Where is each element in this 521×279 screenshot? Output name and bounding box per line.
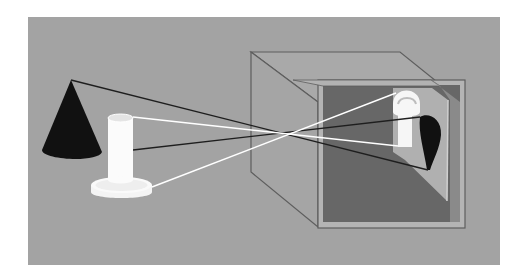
camera-obscura-diagram bbox=[0, 0, 521, 279]
image-plane-edge bbox=[447, 100, 448, 201]
